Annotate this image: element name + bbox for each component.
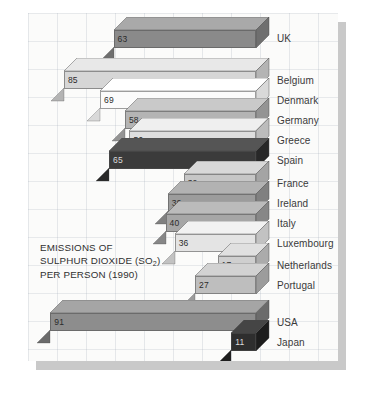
bar-japan: 11: [231, 333, 256, 351]
category-label-germany: Germany: [277, 116, 319, 126]
chart-figure: 6385695856653239403617279111 UKBelgiumDe…: [0, 0, 367, 402]
chart-title-subscript: 2: [153, 259, 157, 268]
bar-top-face: [166, 201, 269, 215]
bar-left-bevel: [51, 88, 65, 102]
chart-title-line-2: SULPHUR DIOXIDE (SO2): [40, 254, 160, 268]
bar-value-label: 69: [104, 96, 114, 105]
category-label-ireland: Ireland: [277, 199, 308, 209]
bar-portugal: 27: [195, 276, 256, 294]
category-label-italy: Italy: [277, 219, 296, 229]
bar-front-face: [50, 313, 256, 331]
category-label-netherlands: Netherlands: [277, 261, 332, 271]
bar-left-bevel: [96, 168, 110, 182]
bar-value-label: 91: [54, 318, 64, 327]
chart-title-line-2-pre: SULPHUR DIOXIDE (SO: [40, 255, 153, 266]
chart-title-line-3: PER PERSON (1990): [40, 268, 160, 281]
bar-value-label: 85: [68, 76, 78, 85]
bar-top-face: [64, 58, 269, 72]
bar-value-label: 27: [199, 281, 209, 290]
bar-value-label: 65: [113, 156, 123, 165]
bar-left-bevel: [87, 108, 101, 122]
bar-front-face: [114, 30, 256, 48]
chart-title-line-1: EMISSIONS OF: [40, 241, 160, 254]
bar-side-face: [256, 320, 270, 352]
category-label-greece: Greece: [277, 136, 310, 146]
category-label-denmark: Denmark: [277, 96, 318, 106]
bar-value-label: 11: [235, 338, 244, 347]
category-label-portugal: Portugal: [277, 281, 315, 291]
category-label-luxembourg: Luxembourg: [277, 239, 334, 249]
category-label-france: France: [277, 179, 309, 189]
bar-top-face: [109, 138, 269, 152]
bar-left-bevel: [218, 350, 232, 361]
bar-value-label: 63: [118, 35, 128, 44]
bar-value-label: 36: [179, 239, 189, 248]
category-label-spain: Spain: [277, 156, 303, 166]
category-label-usa: USA: [277, 318, 298, 328]
bar-top-face: [175, 221, 269, 235]
bar-usa: 91: [50, 313, 256, 331]
bar-top-face: [129, 118, 269, 132]
bar-side-face: [256, 263, 270, 295]
chart-title: EMISSIONS OF SULPHUR DIOXIDE (SO2) PER P…: [40, 241, 160, 282]
bar-top-face: [114, 17, 269, 31]
bar-side-face: [256, 17, 270, 49]
bar-uk: 63: [114, 30, 256, 48]
bar-top-face: [168, 181, 269, 195]
bar-top-face: [100, 78, 269, 92]
category-label-japan: Japan: [277, 338, 305, 348]
category-label-belgium: Belgium: [277, 76, 314, 86]
bar-left-bevel: [162, 251, 176, 265]
chart-title-line-2-post: ): [157, 255, 160, 266]
bar-top-face: [125, 98, 269, 112]
bar-top-face: [50, 300, 269, 314]
category-label-uk: UK: [277, 34, 291, 44]
bar-left-bevel: [37, 330, 51, 344]
